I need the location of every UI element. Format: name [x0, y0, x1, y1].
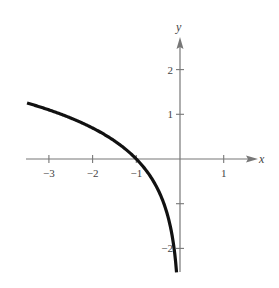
x-tick-label: 1: [221, 167, 227, 179]
function-curve: [27, 103, 177, 272]
y-tick-label: −2: [161, 242, 173, 254]
y-tick-label: 1: [168, 108, 174, 120]
chart: −3−2−1121−2 x y: [0, 0, 279, 288]
y-tick-label: 2: [168, 64, 174, 76]
axes: −3−2−1121−2: [26, 37, 258, 272]
y-axis-label: y: [175, 20, 182, 34]
x-tick-label: −1: [130, 167, 142, 179]
x-axis-label: x: [258, 152, 265, 166]
x-tick-label: −2: [87, 167, 99, 179]
x-tick-label: −3: [43, 167, 55, 179]
